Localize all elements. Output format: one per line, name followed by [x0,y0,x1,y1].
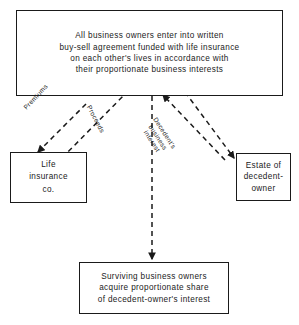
node-buy-sell-agreement-label: All business owners enter into written b… [59,30,239,76]
edge-premiums [38,104,86,152]
node-life-insurance-company-label: Life insurance co. [29,159,68,196]
edge-estate-to-agreement [163,95,225,160]
node-buy-sell-agreement: All business owners enter into written b… [16,10,283,96]
node-surviving-business-owners-label: Surviving business owners acquire propor… [98,271,210,306]
node-estate-of-decedent-owner-label: Estate of decedent- owner [244,160,284,195]
node-estate-of-decedent-owner: Estate of decedent- owner [236,153,291,201]
node-surviving-business-owners: Surviving business owners acquire propor… [79,262,229,314]
node-life-insurance-company: Life insurance co. [10,152,87,203]
buy-sell-agreement-diagram: All business owners enter into written b… [0,0,299,325]
